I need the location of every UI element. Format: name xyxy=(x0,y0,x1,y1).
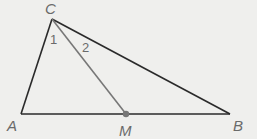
angle-label-2: 2 xyxy=(82,41,89,54)
angle-label-1: 1 xyxy=(50,33,57,46)
side-ac xyxy=(21,19,52,114)
vertex-label-b: B xyxy=(233,118,243,133)
point-label-m: M xyxy=(119,123,132,138)
triangle-diagram: C A M B 1 2 xyxy=(0,0,257,139)
vertex-label-a: A xyxy=(7,118,17,133)
median-cm xyxy=(52,19,126,114)
point-m-dot xyxy=(123,111,129,117)
triangle-figure xyxy=(0,0,257,139)
vertex-label-c: C xyxy=(45,1,56,16)
side-cb xyxy=(52,19,230,114)
